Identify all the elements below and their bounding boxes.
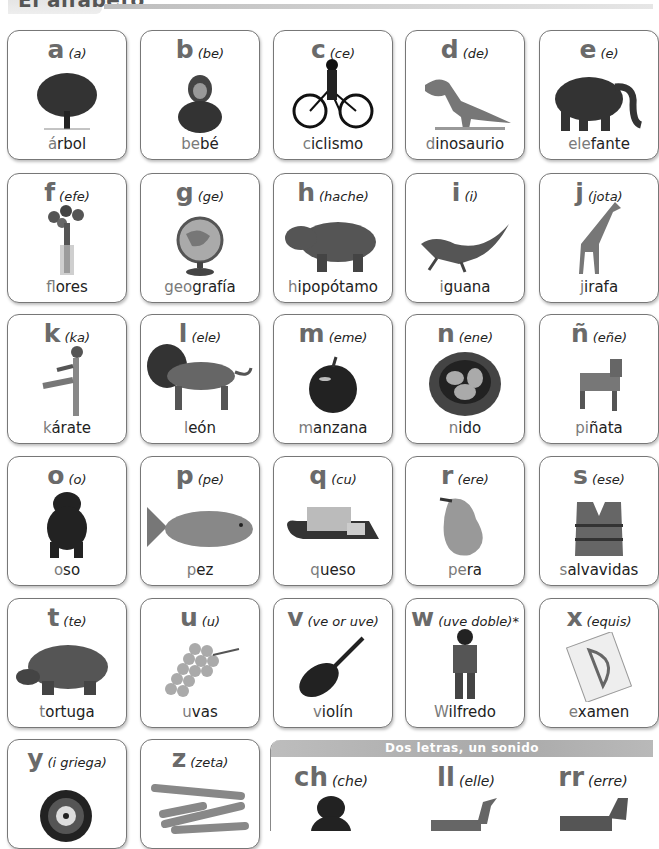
card-word-highlight: d bbox=[426, 135, 436, 153]
card-word-highlight: pe bbox=[448, 561, 467, 579]
bear-icon bbox=[8, 497, 126, 559]
tortoise-icon bbox=[8, 639, 126, 701]
digraph-letter: ch bbox=[294, 762, 328, 792]
card-word-rest: ñata bbox=[589, 419, 623, 437]
letter-card-h: h(hache)hipopótamo bbox=[273, 173, 393, 303]
card-heading: m(eme) bbox=[274, 319, 392, 348]
card-word: hipopótamo bbox=[274, 278, 392, 296]
card-word-rest: rbol bbox=[57, 135, 86, 153]
digraph-panel: Dos letras, un sonido ch(che)ll(elle)rr(… bbox=[270, 740, 653, 831]
card-word: flores bbox=[8, 278, 126, 296]
card-heading: q(cu) bbox=[274, 461, 392, 490]
card-heading: g(ge) bbox=[141, 178, 259, 207]
bicycle-icon bbox=[274, 71, 392, 133]
dinosaur-icon bbox=[406, 71, 524, 133]
card-word: uvas bbox=[141, 703, 259, 721]
boy-icon bbox=[406, 639, 524, 701]
digraph-letter: ll bbox=[437, 762, 455, 792]
card-word-rest: ido bbox=[458, 419, 481, 437]
digraph-letter: rr bbox=[558, 762, 584, 792]
card-letter-name: (ge) bbox=[198, 189, 224, 204]
giraffe-icon bbox=[540, 214, 658, 276]
card-word: iguana bbox=[406, 278, 524, 296]
card-word-rest: xamen bbox=[578, 703, 629, 721]
card-word-highlight: q bbox=[310, 561, 320, 579]
card-heading: u(u) bbox=[141, 603, 259, 632]
letter-card-o: o(o)oso bbox=[7, 456, 127, 586]
card-word-highlight: ele bbox=[568, 135, 591, 153]
card-letter-name: (i) bbox=[464, 189, 478, 204]
digraph-ll: ll(elle) bbox=[406, 762, 526, 831]
pinata-icon bbox=[540, 355, 658, 417]
grapes-icon bbox=[141, 639, 259, 701]
letter-card-e: e(e)elefante bbox=[539, 30, 659, 160]
card-letter-name: (efe) bbox=[59, 189, 90, 204]
letter-card-q: q(cu)queso bbox=[273, 456, 393, 586]
letter-card-t: t(te)tortuga bbox=[7, 598, 127, 728]
card-word-rest: ilfredo bbox=[449, 703, 496, 721]
letter-card-x: x(equis)examen bbox=[539, 598, 659, 728]
card-word: Wilfredo bbox=[406, 703, 524, 721]
donkey-icon bbox=[533, 794, 653, 831]
card-letter-name: (ve or uve) bbox=[307, 614, 378, 629]
baby-icon bbox=[141, 71, 259, 133]
card-letter: m bbox=[299, 319, 325, 348]
card-word-highlight: h bbox=[288, 278, 298, 296]
card-heading: d(de) bbox=[406, 35, 524, 64]
card-heading: o(o) bbox=[8, 461, 126, 490]
card-heading: h(hache) bbox=[274, 178, 392, 207]
hippo-icon bbox=[274, 214, 392, 276]
card-word-rest: alvavidas bbox=[567, 561, 638, 579]
card-heading: a(a) bbox=[8, 35, 126, 64]
card-word: manzana bbox=[274, 419, 392, 437]
card-letter-name: (pe) bbox=[198, 472, 224, 487]
letter-card-a: a(a)árbol bbox=[7, 30, 127, 160]
card-letter: b bbox=[176, 35, 194, 64]
card-letter: h bbox=[297, 178, 315, 207]
card-heading: e(e) bbox=[540, 35, 658, 64]
card-word: ciclismo bbox=[274, 135, 392, 153]
card-word-rest: so bbox=[63, 561, 80, 579]
card-letter-name: (eñe) bbox=[593, 330, 627, 345]
card-word-highlight: pi bbox=[575, 419, 589, 437]
card-word: pera bbox=[406, 561, 524, 579]
letter-card-u: u(u)uvas bbox=[140, 598, 260, 728]
digraph-letter-name: (che) bbox=[332, 773, 368, 789]
card-letter: x bbox=[566, 603, 582, 632]
card-word: árbol bbox=[8, 135, 126, 153]
letter-card-w: w(uve doble)*Wilfredo bbox=[405, 598, 525, 728]
card-word: oso bbox=[8, 561, 126, 579]
exam-icon bbox=[540, 639, 658, 701]
card-letter: g bbox=[176, 178, 194, 207]
karate-icon bbox=[8, 355, 126, 417]
fish-icon bbox=[141, 497, 259, 559]
letter-card-d: d(de)dinosaurio bbox=[405, 30, 525, 160]
card-letter: t bbox=[47, 603, 59, 632]
card-word-rest: ipopótamo bbox=[298, 278, 378, 296]
card-heading: z(zeta) bbox=[141, 744, 259, 773]
card-word-highlight: m bbox=[298, 419, 313, 437]
letter-card-l: l(ele)león bbox=[140, 314, 260, 444]
card-word: kárate bbox=[8, 419, 126, 437]
letter-card-g: g(ge)geografía bbox=[140, 173, 260, 303]
card-letter: ñ bbox=[571, 319, 589, 348]
header-rule bbox=[104, 4, 653, 9]
digraph-ch: ch(che) bbox=[271, 762, 391, 831]
apple-icon bbox=[274, 355, 392, 417]
card-letter: o bbox=[47, 461, 64, 490]
card-letter-name: (a) bbox=[68, 46, 86, 61]
card-word-highlight: u bbox=[182, 703, 192, 721]
card-word-highlight: v bbox=[313, 703, 322, 721]
card-word-highlight: n bbox=[449, 419, 459, 437]
letter-card-p: p(pe)pez bbox=[140, 456, 260, 586]
card-word-highlight: c bbox=[303, 135, 311, 153]
card-word-rest: anzana bbox=[313, 419, 367, 437]
card-heading: b(be) bbox=[141, 35, 259, 64]
life-vest-icon bbox=[540, 497, 658, 559]
card-word-rest: eón bbox=[188, 419, 216, 437]
letter-card-m: m(eme)manzana bbox=[273, 314, 393, 444]
card-letter-name: (hache) bbox=[319, 189, 369, 204]
card-word-rest: ez bbox=[196, 561, 213, 579]
letter-card-f: f(efe)flores bbox=[7, 173, 127, 303]
digraph-letter-name: (elle) bbox=[459, 773, 495, 789]
